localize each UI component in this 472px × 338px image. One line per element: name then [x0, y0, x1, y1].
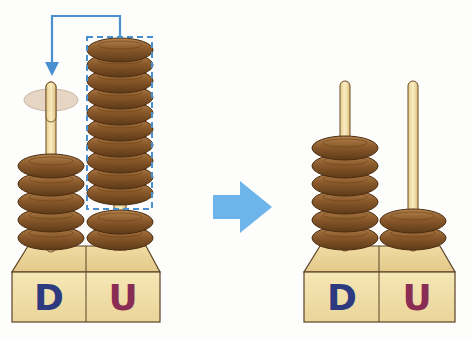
abacus-before: D U [12, 16, 160, 322]
label-units: U [402, 277, 431, 318]
right-arrow-icon [213, 181, 272, 233]
label-tens: D [327, 277, 357, 318]
regrouping-diagram: D U [0, 0, 472, 338]
beads-tens [18, 154, 84, 250]
beads-tens [312, 136, 378, 250]
beads-units-remaining [87, 210, 153, 250]
beads-units [380, 209, 446, 250]
label-units: U [108, 277, 137, 318]
label-tens: D [34, 277, 64, 318]
beads-units-grouped [87, 38, 153, 205]
abacus-after: D U [304, 81, 455, 322]
